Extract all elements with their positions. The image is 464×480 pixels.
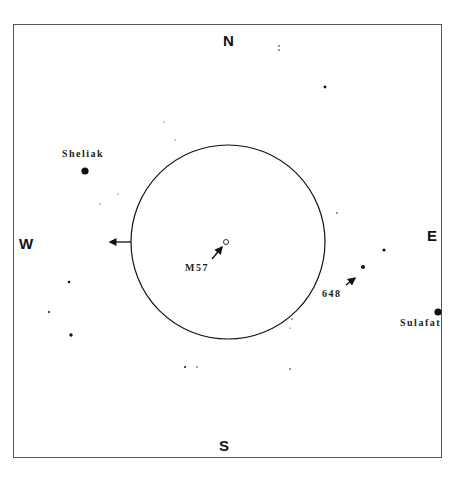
star-sulafat [434,308,441,315]
star [336,212,338,214]
finder-chart: N S W E Sheliak M57 648 Sulafat [0,0,464,480]
pointer-arrows [212,247,355,285]
label-m57: M57 [185,263,209,273]
direction-south: S [219,438,229,453]
m57-marker [224,240,229,245]
star [68,281,71,284]
star [99,203,100,204]
label-sulafat: Sulafat [400,318,441,328]
star [291,318,292,319]
target-markers [224,240,229,245]
direction-west: W [19,236,33,251]
label-648: 648 [322,289,342,299]
648-pointer-arrow [346,278,355,285]
star [289,327,290,328]
star-648 [361,265,365,269]
star [289,368,291,370]
label-sheliak: Sheliak [62,149,104,159]
star [48,311,50,313]
chart-graphics [0,0,464,480]
star [117,193,118,194]
star [278,49,280,51]
star [324,86,327,89]
m57-pointer-arrow [212,247,222,259]
star [174,139,175,140]
star [278,45,280,47]
star-sheliak [81,167,88,174]
star [196,366,197,367]
direction-north: N [223,33,234,48]
star-field [48,45,442,370]
star [382,248,385,251]
star [69,333,72,336]
star [184,366,186,368]
direction-east: E [427,228,437,243]
star [163,121,164,122]
